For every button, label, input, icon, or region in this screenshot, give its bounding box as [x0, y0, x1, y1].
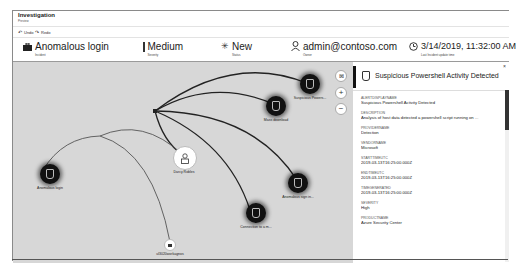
severity-label: Severity [148, 53, 184, 57]
node-suspicious-powershell[interactable] [300, 74, 320, 94]
field-starttimeutc: STARTTIMEUTC 2019-03-13T16:25:00.000Z [361, 156, 497, 166]
investigation-window: Investigation Preview ↶ Undo ↷ Redo Anom… [12, 10, 509, 261]
owner[interactable]: admin@contoso.com Owner [291, 41, 397, 57]
node-mass-download[interactable] [266, 96, 286, 116]
severity-value: Medium [148, 41, 184, 52]
field-description: DESCRIPTION Analysis of host data detect… [361, 111, 497, 121]
sparkle-icon: ✳ [221, 41, 229, 51]
details-panel: Suspicious Powershell Activity Detected … [353, 61, 509, 263]
title-bar: Investigation Preview [13, 11, 509, 25]
last-update-label: Last Incident update time [421, 53, 516, 57]
field-value: 2019-03-13T16:25:00.000Z [361, 190, 497, 196]
graph-canvas[interactable]: Suspicious Powers... Mass download Darcy… [13, 61, 353, 263]
shield-icon [294, 178, 302, 188]
node-anomalous-login[interactable] [40, 164, 60, 184]
node-label: Darcy Robles [173, 170, 194, 174]
panel-header: Suspicious Powershell Activity Detected … [353, 62, 509, 91]
incident-label: Incident [35, 53, 109, 57]
shield-icon [252, 208, 260, 218]
zoom-out-button[interactable]: − [335, 103, 347, 115]
redo-button[interactable]: ↷ Redo [35, 29, 51, 35]
close-panel-button[interactable]: × [503, 63, 506, 69]
shield-icon [272, 101, 280, 111]
window-subtitle: Preview [18, 19, 29, 23]
node-label: Connection to a m... [240, 225, 271, 229]
person-icon [291, 41, 300, 51]
incident-header: Anomalous login Incident Medium Severity… [13, 37, 509, 62]
shield-icon [362, 71, 370, 81]
fit-to-screen-button[interactable]: ⊠ [335, 70, 347, 82]
node-label: Anomalous login [37, 186, 63, 190]
panel-scrollbar[interactable] [505, 90, 509, 262]
field-productname: PRODUCTNAME Azure Security Center [361, 216, 497, 226]
undo-button[interactable]: ↶ Undo [18, 29, 34, 35]
field-value: Microsoft [361, 145, 497, 151]
field-severity: SEVERITY High [361, 201, 497, 211]
last-update-value: 3/14/2019, 11:32:00 AM [421, 41, 516, 52]
node-label: Mass download [264, 118, 288, 122]
shield-icon [46, 169, 54, 179]
window-title: Investigation [18, 12, 55, 18]
bottom-border [12, 259, 508, 260]
selection-bar [353, 66, 356, 88]
field-timegenerated: TIMEGENERATED 2019-03-13T16:25:00.000Z [361, 186, 497, 196]
fit-icon: ⊠ [339, 73, 344, 79]
node-darcy-robles[interactable] [173, 146, 197, 170]
field-value: High [361, 205, 497, 211]
field-vendorname: VENDORNAME Microsoft [361, 141, 497, 151]
panel-title: Suspicious Powershell Activity Detected [375, 72, 499, 79]
status: ✳ New Status [221, 41, 252, 57]
owner-label: Owner [303, 53, 397, 57]
last-update: 3/14/2019, 11:32:00 AM Last Incident upd… [409, 41, 516, 57]
node-host[interactable] [164, 239, 176, 251]
monitor-icon [168, 244, 172, 247]
field-providername: PROVIDERNAME Detection [361, 126, 497, 136]
redo-label: Redo [41, 30, 51, 35]
shield-icon [306, 79, 314, 89]
command-bar: ↶ Undo ↷ Redo [13, 26, 509, 37]
owner-value: admin@contoso.com [303, 41, 397, 52]
severity: Medium Severity [143, 41, 183, 57]
status-value: New [232, 41, 252, 52]
field-value: Azure Security Center [361, 220, 497, 226]
redo-icon: ↷ [35, 29, 39, 35]
field-value: Analysis of host data detected a powersh… [361, 115, 497, 121]
scrollbar-thumb[interactable] [505, 90, 509, 130]
node-label: Suspicious Powers... [294, 96, 327, 100]
clock-icon [409, 42, 418, 51]
field-value: Suspicious Powershell Activity Detected [361, 100, 497, 106]
undo-label: Undo [24, 30, 34, 35]
field-alertdisplayname: ALERTDISPLAYNAME Suspicious Powershell A… [361, 96, 497, 106]
field-value: 2019-03-13T16:25:00.000Z [361, 160, 497, 166]
field-value: Detection [361, 130, 497, 136]
briefcase-icon [23, 43, 32, 51]
field-value: 2019-03-13T16:25:00.000Z [361, 175, 497, 181]
zoom-in-button[interactable]: + [335, 87, 347, 99]
node-label: ul3020workagnos [156, 252, 183, 256]
panel-fields: ALERTDISPLAYNAME Suspicious Powershell A… [361, 96, 497, 231]
account-icon [180, 153, 190, 164]
incident-name: Anomalous login [35, 41, 109, 52]
node-label: Anomalous sign in... [282, 195, 314, 199]
field-endtimeutc: ENDTIMEUTC 2019-03-13T16:25:00.000Z [361, 171, 497, 181]
undo-icon: ↶ [18, 29, 22, 35]
severity-bar-icon [143, 42, 145, 52]
node-connection-to[interactable] [246, 203, 266, 223]
incident-title: Anomalous login Incident [23, 41, 109, 57]
node-anomalous-sign-in[interactable] [288, 173, 308, 193]
status-label: Status [232, 53, 252, 57]
